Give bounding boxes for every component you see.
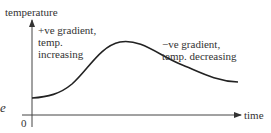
diagram-canvas <box>0 0 271 133</box>
cropped-text-fragment: e <box>0 100 6 116</box>
annotation-line: temp. decreasing <box>162 50 237 62</box>
positive-gradient-annotation: +ve gradient, temp. increasing <box>38 24 96 60</box>
annotation-line: −ve gradient, <box>162 38 237 50</box>
y-axis-label: temperature <box>5 6 58 18</box>
annotation-line: +ve gradient, <box>38 24 96 36</box>
annotation-line: temp. <box>38 36 96 48</box>
x-axis-label: time <box>244 109 264 121</box>
negative-gradient-annotation: −ve gradient, temp. decreasing <box>162 38 237 62</box>
annotation-line: increasing <box>38 48 96 60</box>
origin-label: 0 <box>21 117 27 129</box>
